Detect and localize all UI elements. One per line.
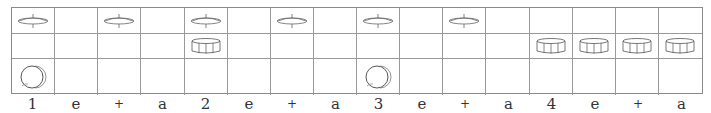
beat-count-label: e (54, 95, 97, 113)
grid-cell-snare-12[interactable] (486, 34, 529, 59)
grid-cell-snare-11[interactable] (443, 34, 486, 59)
kick-icon (363, 62, 393, 92)
hihat-icon (275, 13, 309, 29)
grid-cell-snare-2[interactable] (55, 34, 98, 59)
grid-cell-hi-hat-12[interactable] (486, 8, 529, 34)
grid-cell-bass-drum-2[interactable] (55, 59, 98, 95)
grid-cell-hi-hat-2[interactable] (55, 8, 98, 34)
grid-cell-hi-hat-10[interactable] (400, 8, 443, 34)
beat-count-label: + (98, 95, 141, 113)
grid-cell-bass-drum-14[interactable] (573, 59, 616, 95)
beat-count-row: 1e+a2e+a3e+a4e+a (11, 95, 703, 113)
grid-cell-hi-hat-8[interactable] (314, 8, 357, 34)
grid-cell-bass-drum-7[interactable] (271, 59, 314, 95)
grid-cell-bass-drum-15[interactable] (616, 59, 659, 95)
hihat-icon (16, 13, 50, 29)
grid-cell-bass-drum-12[interactable] (486, 59, 529, 95)
beat-count-label: 4 (530, 95, 573, 113)
grid-cell-hi-hat-16[interactable] (659, 8, 702, 34)
grid-cell-snare-8[interactable] (314, 34, 357, 59)
grid-cell-bass-drum-4[interactable] (141, 59, 184, 95)
hihat-icon (102, 13, 136, 29)
grid-cell-bass-drum-9[interactable] (357, 59, 400, 95)
grid-cell-hi-hat-6[interactable] (228, 8, 271, 34)
snare-icon (621, 37, 653, 55)
grid-cell-hi-hat-3[interactable] (98, 8, 141, 34)
beat-count-label: e (573, 95, 616, 113)
grid-cell-hi-hat-1[interactable] (12, 8, 55, 34)
beat-count-label: 1 (11, 95, 54, 113)
grid-cell-snare-9[interactable] (357, 34, 400, 59)
snare-icon (664, 37, 696, 55)
beat-count-label: + (617, 95, 660, 113)
grid-cell-hi-hat-15[interactable] (616, 8, 659, 34)
grid-cell-hi-hat-7[interactable] (271, 8, 314, 34)
grid-cell-snare-1[interactable] (12, 34, 55, 59)
beat-count-label: 2 (184, 95, 227, 113)
beat-count-label: a (487, 95, 530, 113)
grid-cell-bass-drum-16[interactable] (659, 59, 702, 95)
grid-cell-bass-drum-11[interactable] (443, 59, 486, 95)
grid-cell-hi-hat-11[interactable] (443, 8, 486, 34)
beat-count-label: a (314, 95, 357, 113)
snare-icon (535, 37, 567, 55)
snare-icon (578, 37, 610, 55)
beat-count-label: e (400, 95, 443, 113)
grid-cell-bass-drum-1[interactable] (12, 59, 55, 95)
grid-cell-hi-hat-5[interactable] (185, 8, 228, 34)
grid-cell-bass-drum-10[interactable] (400, 59, 443, 95)
beat-count-label: + (444, 95, 487, 113)
grid-cell-snare-13[interactable] (530, 34, 573, 59)
hihat-icon (361, 13, 395, 29)
snare-icon (190, 37, 222, 55)
grid-cell-snare-3[interactable] (98, 34, 141, 59)
grid-cell-snare-4[interactable] (141, 34, 184, 59)
beat-count-label: a (141, 95, 184, 113)
kick-icon (18, 62, 48, 92)
grid-cell-bass-drum-13[interactable] (530, 59, 573, 95)
grid-cell-hi-hat-14[interactable] (573, 8, 616, 34)
drum-pattern-grid (11, 7, 703, 94)
grid-cell-snare-14[interactable] (573, 34, 616, 59)
grid-cell-snare-15[interactable] (616, 34, 659, 59)
grid-cell-bass-drum-6[interactable] (228, 59, 271, 95)
hihat-icon (189, 13, 223, 29)
grid-cell-snare-10[interactable] (400, 34, 443, 59)
grid-cell-hi-hat-13[interactable] (530, 8, 573, 34)
grid-cell-snare-6[interactable] (228, 34, 271, 59)
beat-count-label: e (227, 95, 270, 113)
grid-cell-bass-drum-3[interactable] (98, 59, 141, 95)
beat-count-label: a (660, 95, 703, 113)
hihat-icon (447, 13, 481, 29)
grid-cell-bass-drum-8[interactable] (314, 59, 357, 95)
grid-cell-hi-hat-4[interactable] (141, 8, 184, 34)
grid-cell-hi-hat-9[interactable] (357, 8, 400, 34)
grid-cell-snare-5[interactable] (185, 34, 228, 59)
beat-count-label: 3 (357, 95, 400, 113)
beat-count-label: + (271, 95, 314, 113)
grid-cell-bass-drum-5[interactable] (185, 59, 228, 95)
grid-cell-snare-16[interactable] (659, 34, 702, 59)
grid-cell-snare-7[interactable] (271, 34, 314, 59)
